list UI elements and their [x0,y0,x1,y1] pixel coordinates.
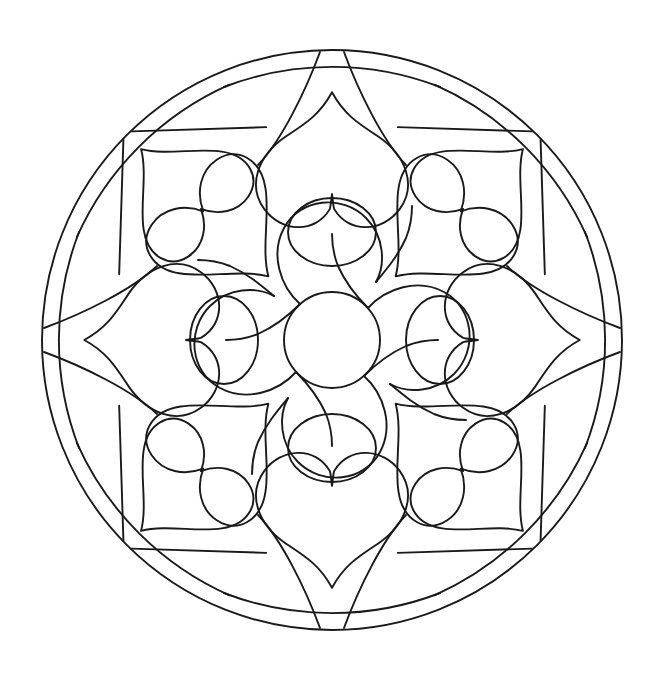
middle-heart [134,142,317,325]
middle-heart [134,354,317,537]
center-disc [284,292,380,388]
axis-lobe [190,296,258,384]
axis-bulb [84,264,219,416]
axis-lobe [288,198,376,266]
rim-spoke-ring [44,52,620,628]
coloring-page-artboard [0,0,670,675]
outer-heart-ring [96,104,569,577]
middle-heart [346,354,529,537]
outer-boundary-circle [42,50,622,630]
mandala-illustration [0,0,670,675]
axis-bulb-ring [84,92,579,587]
axis-bulb [256,453,408,588]
axis-lobe [288,414,376,482]
axis-bulb [445,264,580,416]
middle-heart [346,142,529,325]
axis-bulb [256,92,408,227]
axis-lobe [406,296,474,384]
inner-petal-ring [194,202,469,477]
